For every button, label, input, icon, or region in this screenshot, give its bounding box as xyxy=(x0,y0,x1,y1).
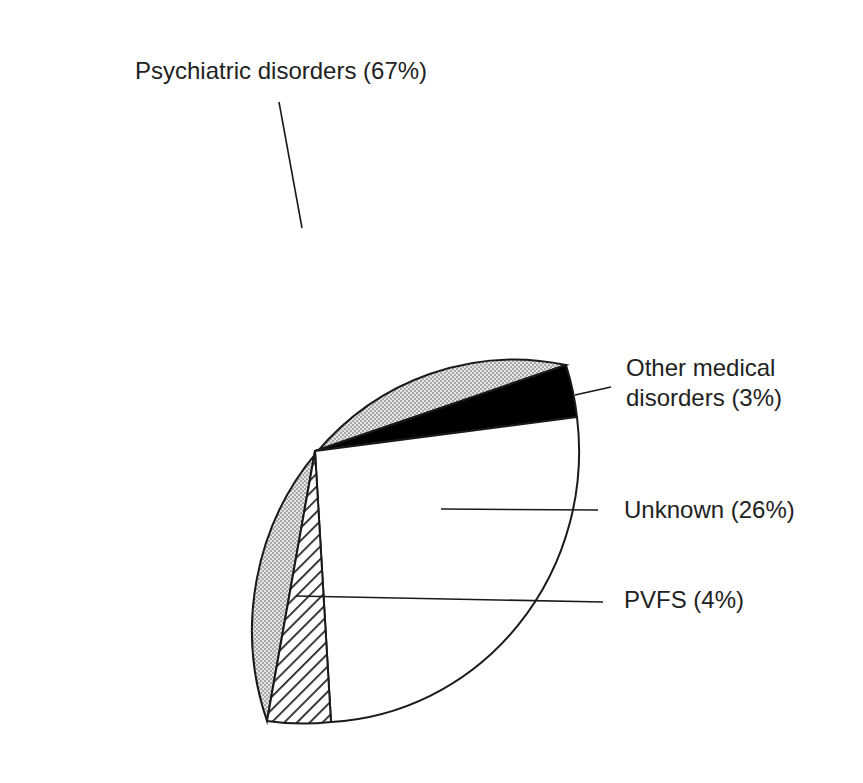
label-unknown: Unknown (26%) xyxy=(624,495,795,525)
leader-line-unknown xyxy=(441,509,598,510)
leader-line-other-medical xyxy=(575,387,611,395)
label-psychiatric-disorders: Psychiatric disorders (67%) xyxy=(135,56,427,86)
label-other-medical-disorders: Other medical disorders (3%) xyxy=(626,353,782,413)
label-pvfs: PVFS (4%) xyxy=(624,585,744,615)
leader-line-psychiatric xyxy=(279,102,302,228)
slice-unknown xyxy=(315,417,579,722)
label-other-line2: disorders (3%) xyxy=(626,383,782,413)
label-other-line1: Other medical xyxy=(626,354,775,381)
